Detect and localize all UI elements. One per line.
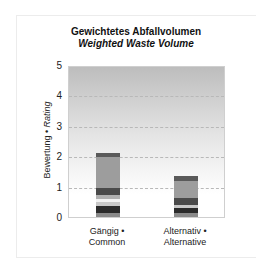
bar-segment — [96, 157, 120, 187]
x-tick-label: Gängig •Common — [72, 226, 142, 248]
y-tick-label: 3 — [50, 121, 62, 132]
bar-segment — [174, 181, 198, 198]
y-tick-label: 1 — [50, 182, 62, 193]
y-tick-label: 2 — [50, 151, 62, 162]
gridline — [69, 157, 224, 158]
chart-subtitle: Weighted Waste Volume — [16, 38, 256, 49]
y-axis-label: Bewertung • Rating — [42, 85, 52, 195]
stacked-bar — [96, 153, 120, 217]
plot-area — [68, 66, 225, 218]
stacked-bar — [174, 176, 198, 217]
chart-title: Gewichtetes Abfallvolumen — [16, 26, 256, 37]
y-tick-label: 5 — [50, 60, 62, 71]
bar-segment — [174, 213, 198, 217]
y-tick-label: 0 — [50, 212, 62, 223]
gridline — [69, 96, 224, 97]
x-tick-label: Alternativ •Alternative — [150, 226, 220, 248]
gridline — [69, 127, 224, 128]
bar-segment — [174, 198, 198, 205]
bar-segment — [96, 206, 120, 213]
bar-segment — [96, 213, 120, 217]
gridline — [69, 188, 224, 189]
bar-segment — [96, 188, 120, 195]
y-tick-label: 4 — [50, 90, 62, 101]
